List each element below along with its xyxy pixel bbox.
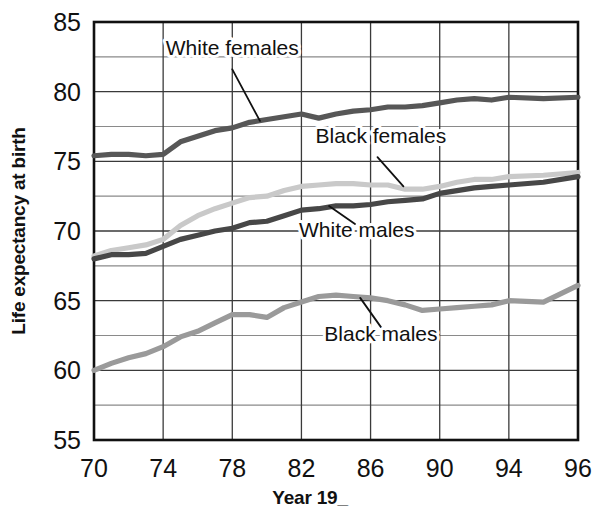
y-tick-label: 85	[53, 8, 81, 36]
y-axis-title: Life expectancy at birth	[8, 127, 29, 334]
x-axis-title: Year 19_	[272, 487, 348, 508]
y-tick-label: 60	[53, 356, 81, 384]
series-label-white-females: White females	[166, 36, 299, 59]
x-tick-label: 78	[218, 454, 246, 482]
chart-figure: White femalesWhite femalesBlack femalesB…	[0, 0, 599, 525]
x-tick-label: 96	[564, 454, 592, 482]
y-tick-label: 70	[53, 217, 81, 245]
x-tick-label: 86	[357, 454, 385, 482]
y-tick-label: 75	[53, 147, 81, 175]
y-tick-label: 55	[53, 426, 81, 454]
series-label-white-males: White males	[299, 218, 415, 241]
x-tick-label: 94	[495, 454, 523, 482]
line-chart: White femalesWhite femalesBlack femalesB…	[0, 0, 599, 525]
x-tick-label: 82	[288, 454, 316, 482]
x-tick-label: 90	[426, 454, 454, 482]
x-tick-label: 70	[80, 454, 108, 482]
y-tick-label: 80	[53, 78, 81, 106]
y-tick-label: 65	[53, 287, 81, 315]
series-label-black-males: Black males	[324, 322, 437, 345]
x-tick-label: 74	[149, 454, 177, 482]
series-label-black-females: Black females	[316, 124, 447, 147]
